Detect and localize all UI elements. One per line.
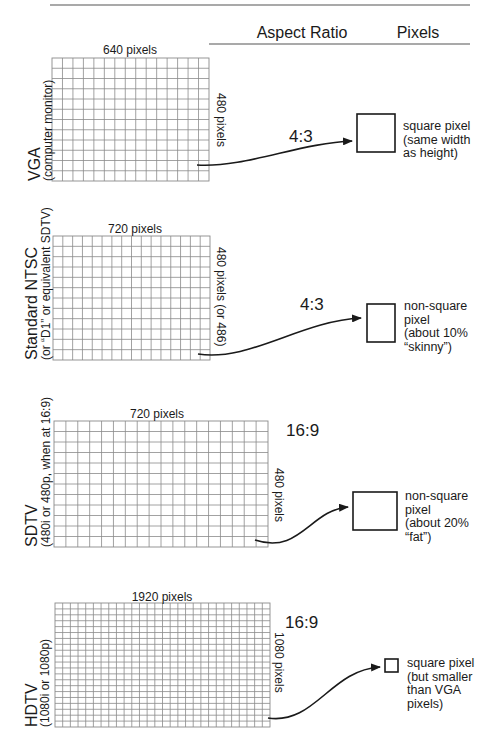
hdtv-aspect-ratio: 16:9 (285, 613, 318, 632)
sdtv-pixel-grid (54, 421, 268, 547)
sdtv-format-name: SDTV (23, 504, 40, 547)
sdtv-pixel-description: non-squarepixel(about 20%“fat”) (405, 489, 469, 544)
hdtv-pixel-description: square pixel(but smallerthan VGApixels) (407, 656, 474, 711)
sdtv-width-label: 720 pixels (130, 407, 184, 421)
sdtv-height-label: 480 pixels (272, 468, 286, 522)
ntsc-format-subtitle: (or “D1” or equivalent SDTV) (39, 207, 53, 360)
ntsc-aspect-ratio: 4:3 (300, 295, 324, 314)
hdtv-width-label: 1920 pixels (132, 590, 193, 604)
ntsc-pixel-description: non-squarepixel(about 10%“skinny”) (404, 299, 468, 354)
hdtv-height-label: 1080 pixels (272, 632, 286, 693)
vga-aspect-ratio: 4:3 (289, 127, 313, 146)
sdtv-arrow-icon (255, 507, 348, 543)
ntsc-width-label: 720 pixels (108, 222, 162, 236)
format-row-sdtv: 720 pixels480 pixelsSDTV(480i or 480p, w… (23, 397, 469, 547)
sdtv-format-subtitle: (480i or 480p, when at 16:9) (39, 397, 53, 547)
format-rows: 640 pixels480 pixelsVGA(computer monitor… (23, 43, 474, 727)
sdtv-aspect-ratio: 16:9 (286, 421, 319, 440)
vga-height-label: 480 pixels (214, 93, 228, 147)
vga-pixel-grid (52, 58, 209, 181)
aspect-ratio-diagram: Aspect Ratio Pixels 640 pixels480 pixels… (0, 0, 494, 748)
ntsc-pixel-grid (53, 236, 210, 360)
hdtv-pixel-grid (55, 603, 270, 727)
format-row-ntsc: 720 pixels480 pixels (or 486)Standard NT… (23, 207, 468, 360)
column-header: Aspect Ratio Pixels (209, 24, 470, 44)
ntsc-format-name: Standard NTSC (23, 247, 40, 360)
vga-width-label: 640 pixels (103, 43, 157, 57)
sdtv-pixel-shape (353, 492, 397, 530)
format-row-vga: 640 pixels480 pixelsVGA(computer monitor… (26, 43, 470, 181)
format-row-hdtv: 1920 pixels1080 pixelsHDTV(1080i or 1080… (23, 590, 474, 727)
hdtv-pixel-shape (385, 659, 398, 672)
vga-pixel-description: square pixel(same widthas height) (403, 119, 470, 160)
vga-pixel-shape (357, 114, 395, 152)
hdtv-format-subtitle: (1080i or 1080p) (38, 639, 52, 727)
vga-format-subtitle: (computer monitor) (41, 80, 55, 181)
ntsc-height-label: 480 pixels (or 486) (214, 247, 228, 346)
ntsc-pixel-shape (367, 304, 395, 342)
pixels-header: Pixels (397, 24, 440, 41)
aspect-ratio-header: Aspect Ratio (257, 24, 348, 41)
